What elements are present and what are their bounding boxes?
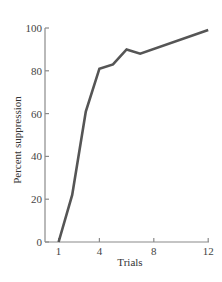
x-tick-label: 1: [56, 245, 62, 257]
x-tick-label: 12: [203, 245, 214, 257]
y-tick-label: 0: [37, 236, 43, 248]
x-tick-label: 8: [151, 245, 157, 257]
y-tick-label: 60: [31, 108, 43, 120]
y-tick-label: 100: [26, 22, 43, 34]
y-tick-label: 80: [31, 65, 43, 77]
axes: [45, 28, 209, 242]
y-tick-label: 40: [31, 150, 43, 162]
x-ticks: 14812: [56, 238, 214, 257]
x-tick-label: 4: [97, 245, 103, 257]
data-series-line: [59, 30, 209, 242]
y-tick-label: 20: [31, 193, 43, 205]
line-chart: 020406080100 14812 Percent suppression T…: [0, 0, 222, 282]
x-axis-title: Trials: [117, 256, 142, 268]
y-axis-title: Percent suppression: [11, 96, 23, 184]
cropped-caption: [14, 276, 204, 282]
